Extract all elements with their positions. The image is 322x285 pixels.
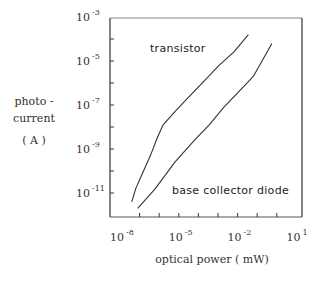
x-tick-label: 10-2: [228, 228, 252, 244]
y-tick-label: 10-7: [76, 96, 100, 112]
series-line-transistor: [132, 35, 249, 202]
x-axis-title: optical power ( mW): [155, 253, 269, 266]
annotation-transistor: transistor: [150, 42, 206, 55]
x-tick-label: 101: [286, 228, 307, 244]
annotation-base-collector-diode: base collector diode: [172, 184, 289, 197]
x-tick-label: 10-5: [169, 228, 193, 244]
y-axis-title-line3: ( A ): [22, 134, 46, 147]
y-axis-tick-labels: 10-310-510-710-910-11: [76, 8, 105, 200]
y-axis-title: photo - current ( A ): [13, 95, 55, 147]
x-axis-tick-labels: 10-810-510-2101: [110, 228, 307, 244]
x-axis-ticks: [140, 213, 277, 217]
y-tick-label: 10-11: [76, 184, 105, 200]
x-tick-label: 10-8: [110, 228, 134, 244]
y-axis-title-line2: current: [13, 112, 55, 125]
y-axis-title-line1: photo -: [14, 95, 53, 108]
y-tick-label: 10-5: [76, 52, 100, 68]
y-tick-label: 10-3: [76, 8, 100, 24]
photocurrent-chart: 10-310-510-710-910-11 10-810-510-2101 tr…: [0, 0, 322, 285]
y-tick-label: 10-9: [76, 140, 100, 156]
data-series: [132, 35, 272, 209]
